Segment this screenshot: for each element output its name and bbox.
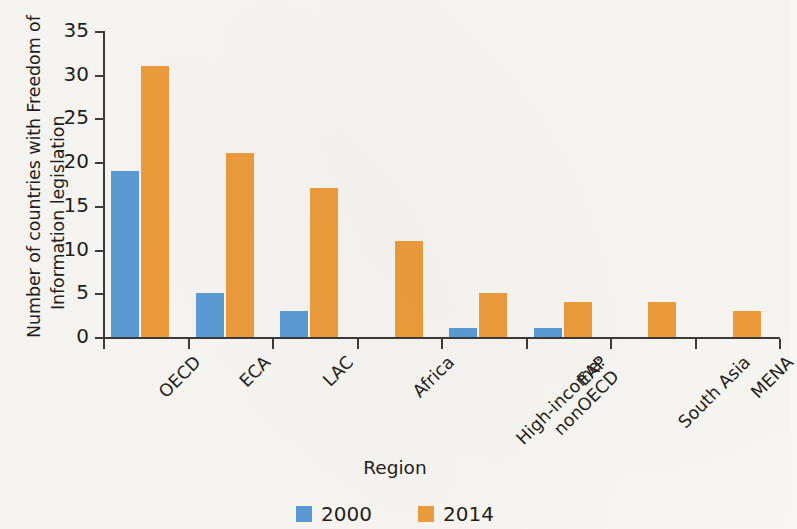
x-axis-tick	[526, 339, 528, 349]
y-axis-tick-label: 25	[64, 106, 89, 128]
x-axis-category-label-line: LAC	[319, 352, 357, 390]
x-axis-tick	[103, 339, 105, 349]
plot-area: 05101520253035	[104, 32, 780, 338]
x-axis-tick	[272, 339, 274, 349]
x-axis-tick	[779, 339, 781, 349]
y-axis-title-line-1: Number of countries with Freedom of	[24, 15, 44, 338]
x-axis-category-label: MENA	[747, 352, 797, 402]
x-axis-tick	[188, 339, 190, 349]
bar-2014-africa	[395, 241, 423, 337]
x-axis-tick	[610, 339, 612, 349]
y-axis-title: Number of countries with Freedom of Info…	[0, 0, 60, 350]
bar-2000-high-income-nonoecd	[449, 328, 477, 337]
x-axis-category-label-line: South Asia	[675, 352, 755, 432]
bar-2014-eap	[564, 302, 592, 337]
y-axis-tick: 25	[95, 118, 104, 120]
x-axis-category-label: ECA	[235, 352, 274, 391]
x-axis-category-label: South Asia	[675, 352, 755, 432]
y-axis-tick-label: 15	[64, 194, 89, 216]
legend-label: 2014	[443, 503, 494, 525]
legend-swatch-icon	[418, 506, 434, 522]
bar-2000-eca	[196, 293, 224, 337]
y-axis-tick-label: 30	[64, 63, 89, 85]
y-axis-tick-label: 20	[64, 150, 89, 172]
x-axis-category-label: Africa	[408, 352, 457, 401]
y-axis-line	[103, 31, 105, 338]
bar-2014-mena	[733, 311, 761, 337]
x-axis-title: Region	[0, 457, 790, 478]
y-axis-tick: 10	[95, 250, 104, 252]
bar-2000-eap	[534, 328, 562, 337]
bar-2014-oecd	[141, 66, 169, 337]
bar-2000-lac	[280, 311, 308, 337]
bar-2014-south-asia	[648, 302, 676, 337]
bar-2014-high-income-nonoecd	[479, 293, 507, 337]
x-axis-category-label: OECD	[155, 352, 205, 402]
y-axis-tick-label: 35	[64, 19, 89, 41]
y-axis-tick: 30	[95, 75, 104, 77]
y-axis-tick-label: 10	[64, 238, 89, 260]
y-axis-tick: 5	[95, 293, 104, 295]
y-axis-tick: 35	[95, 31, 104, 33]
x-axis-category-label-line: Africa	[408, 352, 457, 401]
y-axis-tick-label: 0	[76, 325, 89, 347]
x-axis-tick	[695, 339, 697, 349]
bar-2000-oecd	[111, 171, 139, 337]
x-axis-category-label-line: OECD	[155, 352, 205, 402]
x-axis-category-label-line: ECA	[235, 352, 274, 391]
y-axis-tick: 15	[95, 206, 104, 208]
x-axis-category-label-line: MENA	[747, 352, 797, 402]
x-axis-tick	[357, 339, 359, 349]
bar-2014-eca	[226, 153, 254, 337]
x-axis-category-label: LAC	[319, 352, 357, 390]
x-axis-tick	[441, 339, 443, 349]
legend-item-2014[interactable]: 2014	[418, 503, 494, 525]
chart-legend: 20002014	[0, 503, 790, 525]
legend-item-2000[interactable]: 2000	[296, 503, 372, 525]
bar-2014-lac	[310, 188, 338, 337]
legend-label: 2000	[321, 503, 372, 525]
y-axis-tick: 20	[95, 162, 104, 164]
legend-swatch-icon	[296, 506, 312, 522]
y-axis-tick-label: 5	[76, 281, 89, 303]
